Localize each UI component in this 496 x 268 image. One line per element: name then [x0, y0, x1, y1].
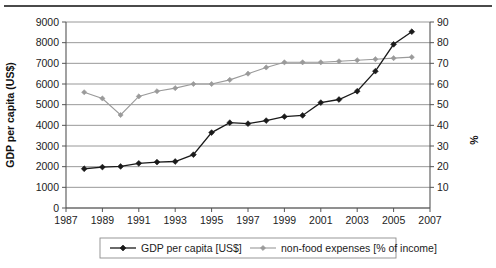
y-axis-left-tick-label: 2000: [36, 160, 60, 172]
data-point-non-food-expenses: [355, 58, 360, 63]
data-point-non-food-expenses: [173, 86, 178, 91]
x-axis-tick-label: 1993: [164, 214, 188, 226]
data-point-non-food-expenses: [82, 90, 87, 95]
y-axis-left-tick-label: 3000: [36, 140, 60, 152]
x-axis-tick-label: 2003: [346, 214, 370, 226]
data-point-gdp-per-capita: [263, 118, 269, 124]
y-axis-right-tick-label: 70: [437, 57, 449, 69]
data-point-non-food-expenses: [227, 77, 232, 82]
y-axis-left-title: GDP per capita (US$): [4, 62, 16, 167]
x-axis-tick-label: 1999: [273, 214, 297, 226]
data-point-non-food-expenses: [191, 81, 196, 86]
y-axis-right-title: %: [468, 135, 480, 145]
x-axis-tick-label: 2005: [382, 214, 406, 226]
data-point-non-food-expenses: [209, 81, 214, 86]
data-point-non-food-expenses: [373, 57, 378, 62]
x-axis-tick-label: 1991: [127, 214, 151, 226]
data-point-non-food-expenses: [245, 71, 250, 76]
legend-label-1: non-food expenses [% of income]: [281, 242, 437, 254]
data-point-non-food-expenses: [154, 89, 159, 94]
data-point-non-food-expenses: [264, 65, 269, 70]
y-axis-left-tick-label: 7000: [36, 57, 60, 69]
y-axis-left-tick-label: 9000: [36, 16, 60, 28]
y-axis-right-tick-label: 50: [437, 98, 449, 110]
x-axis-tick-label: 1989: [91, 214, 115, 226]
data-point-gdp-per-capita: [282, 114, 288, 120]
chart-figure: 0100020003000400050006000700080009000102…: [0, 0, 496, 268]
y-axis-right-tick-label: 40: [437, 119, 449, 131]
y-axis-right-tick-label: 80: [437, 36, 449, 48]
chart-canvas: 0100020003000400050006000700080009000102…: [0, 0, 496, 268]
y-axis-left-tick-label: 6000: [36, 78, 60, 90]
y-axis-right-tick-label: 20: [437, 160, 449, 172]
data-point-gdp-per-capita: [336, 97, 342, 103]
x-axis-tick-label: 1995: [200, 214, 224, 226]
x-axis-tick-label: 2007: [418, 214, 442, 226]
y-axis-left-tick-label: 5000: [36, 98, 60, 110]
data-point-gdp-per-capita: [136, 160, 142, 166]
data-point-gdp-per-capita: [154, 159, 160, 165]
x-axis-tick-label: 1987: [54, 214, 78, 226]
data-point-non-food-expenses: [391, 56, 396, 61]
data-point-non-food-expenses: [409, 55, 414, 60]
y-axis-right-tick-label: 90: [437, 16, 449, 28]
y-axis-left-tick-label: 0: [53, 202, 59, 214]
y-axis-left-tick-label: 8000: [36, 36, 60, 48]
y-axis-right-tick-label: 60: [437, 78, 449, 90]
x-axis-tick-label: 2001: [309, 214, 333, 226]
data-point-gdp-per-capita: [118, 164, 124, 170]
data-point-non-food-expenses: [318, 60, 323, 65]
data-point-non-food-expenses: [300, 60, 305, 65]
data-point-gdp-per-capita: [227, 120, 233, 126]
legend-label-0: GDP per capita [US$]: [141, 242, 242, 254]
series-line-gdp-per-capita: [84, 32, 412, 169]
y-axis-right-tick-label: 10: [437, 181, 449, 193]
x-axis-tick-label: 1997: [236, 214, 260, 226]
data-point-non-food-expenses: [282, 60, 287, 65]
y-axis-right-tick-label: 30: [437, 140, 449, 152]
data-point-gdp-per-capita: [172, 159, 178, 165]
y-axis-left-tick-label: 1000: [36, 181, 60, 193]
data-point-gdp-per-capita: [100, 164, 106, 170]
y-axis-left-tick-label: 4000: [36, 119, 60, 131]
